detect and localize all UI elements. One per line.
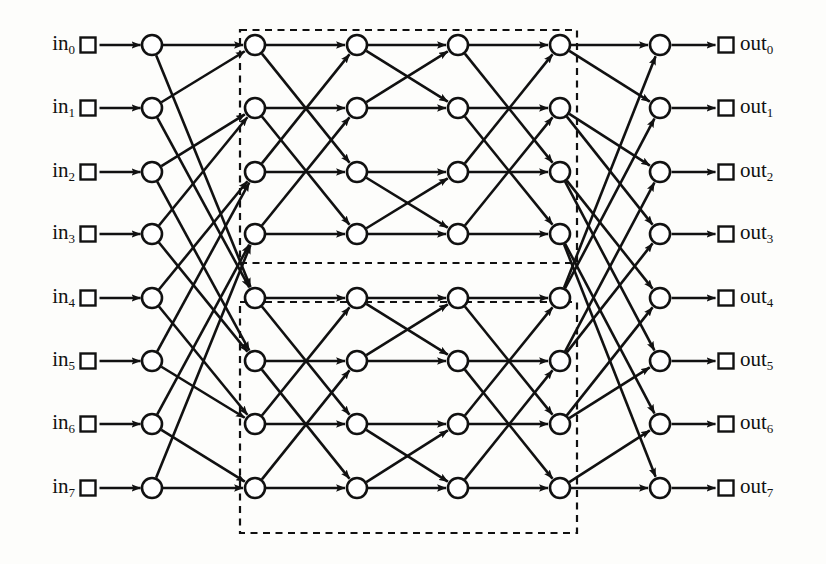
network-canvas (0, 0, 826, 564)
input-label-4: in4 (52, 286, 75, 307)
switch-node-c5-r4[interactable] (650, 288, 670, 308)
edge-perfect-shuffle-5-6 (161, 367, 244, 418)
switch-node-c5-r0[interactable] (650, 35, 670, 55)
switch-node-c0-r5[interactable] (142, 351, 162, 371)
switch-node-c2-r6[interactable] (347, 414, 367, 434)
switch-node-c3-r3[interactable] (448, 224, 468, 244)
output-port-0[interactable] (719, 38, 734, 53)
switch-node-c3-r2[interactable] (448, 162, 468, 182)
edge-perfect-shuffle-1-0 (161, 51, 244, 102)
switch-node-c1-r7[interactable] (245, 478, 265, 498)
output-port-5[interactable] (719, 354, 734, 369)
switch-node-c4-r6[interactable] (550, 414, 570, 434)
input-port-2[interactable] (81, 165, 96, 180)
switch-node-c2-r7[interactable] (347, 478, 367, 498)
switch-node-c1-r0[interactable] (245, 35, 265, 55)
switch-node-c5-r3[interactable] (650, 224, 670, 244)
edge-perfect-shuffle-6-7 (161, 430, 244, 482)
edge-inverse-perfect-shuffle-4-1 (565, 119, 654, 289)
input-port-4[interactable] (81, 291, 96, 306)
output-port-6[interactable] (719, 417, 734, 432)
network-edges (100, 45, 716, 488)
edge-inverse-perfect-shuffle-1-2 (569, 114, 650, 166)
benes-network-diagram: in0in1in2in3in4in5in6in7out0out1out2out3… (0, 0, 826, 564)
switch-node-c0-r0[interactable] (142, 35, 162, 55)
input-port-3[interactable] (81, 227, 96, 242)
output-port-2[interactable] (719, 165, 734, 180)
output-label-3: out3 (740, 222, 773, 243)
switch-node-c2-r4[interactable] (347, 288, 367, 308)
output-label-4: out4 (740, 286, 773, 307)
edge-inverse-perfect-shuffle-6-5 (569, 367, 650, 418)
upper-sub-network (240, 30, 577, 263)
edge-perfect-shuffle-1-4 (157, 118, 249, 288)
input-port-0[interactable] (81, 38, 96, 53)
edge-inverse-perfect-shuffle-7-6 (569, 430, 650, 482)
switch-node-c0-r6[interactable] (142, 414, 162, 434)
input-port-1[interactable] (81, 101, 96, 116)
switch-node-c4-r7[interactable] (550, 478, 570, 498)
switch-node-c4-r2[interactable] (550, 162, 570, 182)
switch-node-c3-r7[interactable] (448, 478, 468, 498)
switch-node-c4-r1[interactable] (550, 98, 570, 118)
output-label-1: out1 (740, 96, 773, 117)
input-port-6[interactable] (81, 417, 96, 432)
switch-node-c3-r1[interactable] (448, 98, 468, 118)
input-label-1: in1 (52, 96, 75, 117)
switch-node-c0-r1[interactable] (142, 98, 162, 118)
output-label-2: out2 (740, 160, 773, 181)
lower-sub-network (240, 302, 577, 533)
switch-node-c0-r3[interactable] (142, 224, 162, 244)
switch-node-c2-r5[interactable] (347, 351, 367, 371)
input-label-7: in7 (52, 476, 75, 497)
switch-node-c5-r6[interactable] (650, 414, 670, 434)
switch-node-c1-r4[interactable] (245, 288, 265, 308)
edge-perfect-shuffle-7-3 (156, 245, 250, 478)
edge-perfect-shuffle-6-3 (157, 245, 249, 415)
input-label-0: in0 (52, 33, 75, 54)
switch-node-c5-r2[interactable] (650, 162, 670, 182)
switch-node-c4-r3[interactable] (550, 224, 570, 244)
output-port-4[interactable] (719, 291, 734, 306)
switch-node-c1-r3[interactable] (245, 224, 265, 244)
switch-node-c2-r3[interactable] (347, 224, 367, 244)
switch-node-c2-r2[interactable] (347, 162, 367, 182)
output-label-0: out0 (740, 33, 773, 54)
output-port-3[interactable] (719, 227, 734, 242)
input-label-6: in6 (52, 412, 75, 433)
switch-node-c3-r4[interactable] (448, 288, 468, 308)
switch-node-c3-r0[interactable] (448, 35, 468, 55)
input-label-3: in3 (52, 222, 75, 243)
input-label-2: in2 (52, 160, 75, 181)
output-label-6: out6 (740, 412, 773, 433)
switch-node-c2-r1[interactable] (347, 98, 367, 118)
output-port-7[interactable] (719, 481, 734, 496)
edge-perfect-shuffle-2-1 (161, 114, 244, 166)
switch-node-c3-r5[interactable] (448, 351, 468, 371)
output-label-7: out7 (740, 476, 773, 497)
switch-node-c0-r4[interactable] (142, 288, 162, 308)
input-label-5: in5 (52, 349, 75, 370)
switch-node-c3-r6[interactable] (448, 414, 468, 434)
switch-node-c4-r5[interactable] (550, 351, 570, 371)
switch-node-c1-r6[interactable] (245, 414, 265, 434)
switch-node-c4-r0[interactable] (550, 35, 570, 55)
switch-node-c1-r5[interactable] (245, 351, 265, 371)
switch-node-c5-r5[interactable] (650, 351, 670, 371)
switch-node-c4-r4[interactable] (550, 288, 570, 308)
input-port-7[interactable] (81, 481, 96, 496)
switch-node-c5-r1[interactable] (650, 98, 670, 118)
input-port-5[interactable] (81, 354, 96, 369)
output-label-5: out5 (740, 349, 773, 370)
switch-node-c0-r7[interactable] (142, 478, 162, 498)
switch-node-c5-r7[interactable] (650, 478, 670, 498)
edge-inverse-perfect-shuffle-0-1 (569, 51, 650, 102)
switch-node-c0-r2[interactable] (142, 162, 162, 182)
output-port-1[interactable] (719, 101, 734, 116)
switch-node-c1-r1[interactable] (245, 98, 265, 118)
switch-node-c1-r2[interactable] (245, 162, 265, 182)
switch-node-c2-r0[interactable] (347, 35, 367, 55)
